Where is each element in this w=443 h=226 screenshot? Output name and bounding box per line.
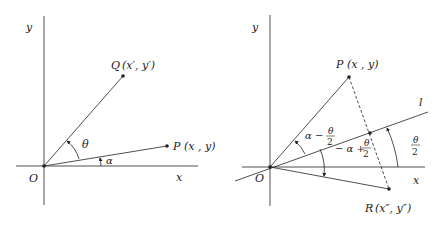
line-l-label: l <box>419 96 423 109</box>
theta-arc <box>67 141 79 159</box>
right-point-p-label: P <box>335 58 344 71</box>
half-theta-den: 2 <box>412 147 418 157</box>
point-p-dot <box>165 144 169 148</box>
lower-angle-prefix: − α + <box>335 143 365 154</box>
theta-label: θ <box>82 138 89 151</box>
point-q-coords: (x′, y′) <box>122 59 155 72</box>
left-x-label: x <box>176 171 183 184</box>
left-origin-label: O <box>29 172 38 185</box>
origin-dot <box>42 164 46 168</box>
upper-angle-arc <box>295 141 305 154</box>
right-point-p-coords: (x , y) <box>347 58 379 71</box>
right-y-label: y <box>251 21 259 34</box>
segment-oq <box>44 76 123 166</box>
left-y-label: y <box>25 21 33 34</box>
rotation-reflection-figure: y x O Q (x′, y′) P (x , y) θ α y x O l P… <box>0 0 443 226</box>
right-diagram: y x O l P (x , y) R (x″, y″) α − θ 2 − α… <box>235 15 428 215</box>
alpha-label: α <box>106 155 113 166</box>
half-theta-arc <box>387 128 398 167</box>
half-theta-num: θ <box>413 135 419 145</box>
lower-angle-num: θ <box>364 138 370 148</box>
right-origin-label: O <box>255 172 264 185</box>
point-p-label: P <box>172 140 181 153</box>
upper-angle-num: θ <box>328 126 334 136</box>
segment-or <box>270 167 389 189</box>
alpha-arc <box>100 158 101 166</box>
right-point-p-dot <box>347 75 351 79</box>
point-r-label: R <box>364 202 373 215</box>
point-q-dot <box>121 74 125 78</box>
lower-angle-arc <box>320 149 324 176</box>
point-r-coords: (x″, y″) <box>375 202 411 215</box>
point-p-coords: (x , y) <box>184 140 216 153</box>
right-origin-dot <box>268 165 272 169</box>
midpoint-dot <box>368 131 372 135</box>
lower-angle-den: 2 <box>363 149 369 159</box>
point-q-label: Q <box>111 59 120 72</box>
left-diagram: y x O Q (x′, y′) P (x , y) θ α <box>16 16 216 205</box>
right-x-label: x <box>413 174 420 187</box>
upper-angle-den: 2 <box>327 137 333 147</box>
upper-angle-prefix: α − <box>305 130 323 141</box>
point-r-dot <box>387 187 391 191</box>
